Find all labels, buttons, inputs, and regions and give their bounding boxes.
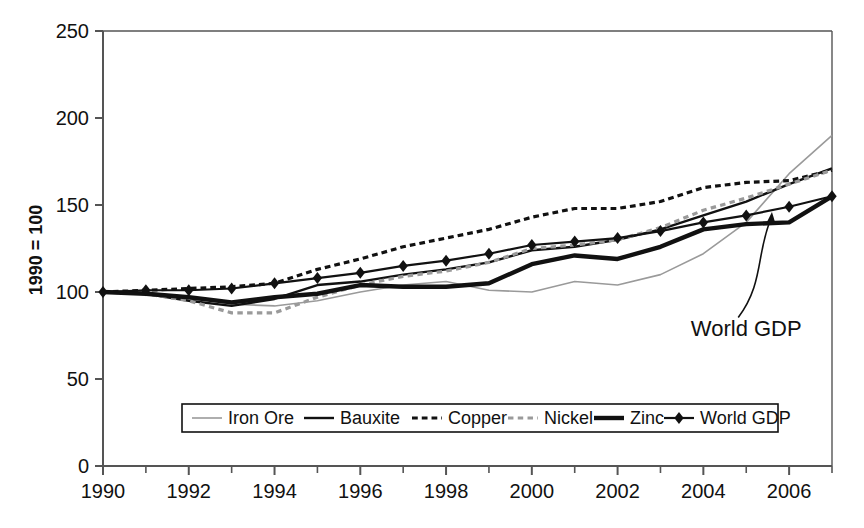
x-tick-label: 2002	[595, 480, 640, 502]
x-tick-label: 2004	[681, 480, 726, 502]
legend-item-label: Copper	[448, 408, 507, 428]
x-tick-label: 2000	[510, 480, 555, 502]
chart-container: 1990 = 100 050100150200250 1990199219941…	[0, 0, 864, 528]
x-tick-label: 1998	[424, 480, 469, 502]
chart-legend: Iron OreBauxiteCopperNickelZincWorld GDP	[182, 404, 791, 432]
y-axis-title: 1990 = 100	[26, 205, 46, 296]
x-tick-label: 1990	[81, 480, 126, 502]
chart-background	[0, 0, 864, 528]
y-tick-label: 0	[78, 455, 89, 477]
y-tick-label: 150	[56, 194, 89, 216]
legend-item-label: Nickel	[544, 408, 593, 428]
legend-item-label: Zinc	[630, 408, 664, 428]
y-tick-label: 250	[56, 20, 89, 42]
y-tick-label: 100	[56, 281, 89, 303]
legend-item-label: Bauxite	[340, 408, 400, 428]
x-tick-label: 1994	[252, 480, 297, 502]
y-tick-label: 50	[67, 368, 89, 390]
x-tick-label: 1996	[338, 480, 383, 502]
y-axis-title-text: 1990 = 100	[26, 205, 46, 296]
x-tick-label: 2006	[767, 480, 812, 502]
y-tick-label: 200	[56, 107, 89, 129]
legend-item-label: World GDP	[700, 408, 791, 428]
line-chart: 1990 = 100 050100150200250 1990199219941…	[0, 0, 864, 528]
legend-item-label: Iron Ore	[228, 408, 294, 428]
annotation-label: World GDP	[691, 316, 802, 341]
x-tick-label: 1992	[167, 480, 212, 502]
